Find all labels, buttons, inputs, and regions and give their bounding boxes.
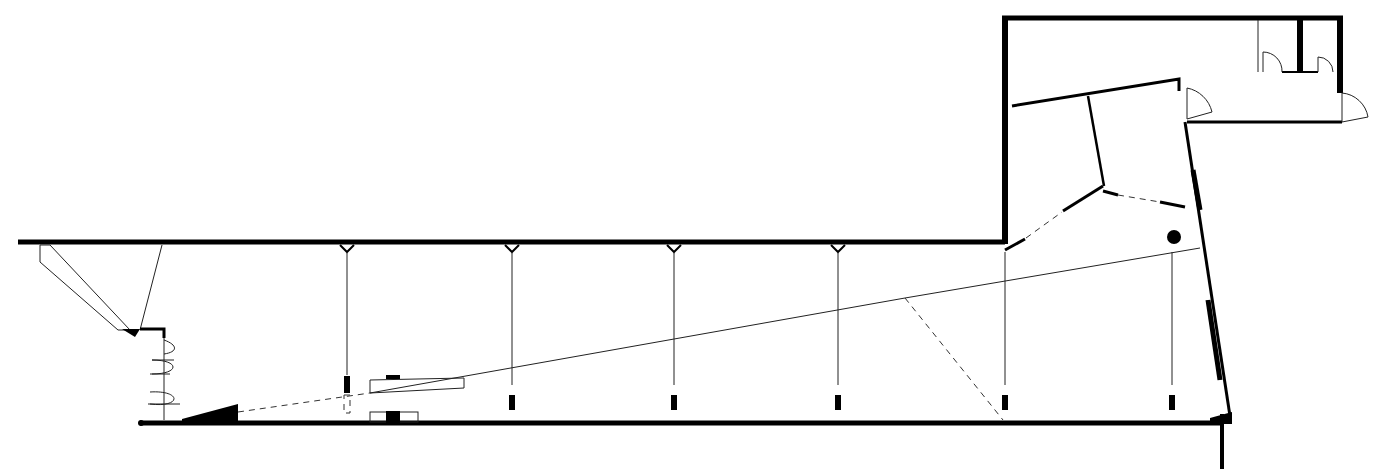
sightline xyxy=(238,248,1200,420)
display-hangers xyxy=(340,245,1175,413)
stair-and-ramp xyxy=(40,245,238,426)
walls xyxy=(18,16,1368,469)
floor-plan-drawing xyxy=(0,0,1379,469)
column-icon xyxy=(1167,230,1181,244)
partitions xyxy=(1005,186,1185,250)
hanger-3 xyxy=(667,245,681,410)
benches xyxy=(370,375,464,423)
hanger-1 xyxy=(340,245,354,413)
hanger-4 xyxy=(831,245,845,410)
post-5 xyxy=(1002,252,1008,410)
post-6 xyxy=(1169,252,1175,410)
hanger-2 xyxy=(505,245,519,410)
